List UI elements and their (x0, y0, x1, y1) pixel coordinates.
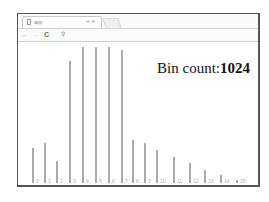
tab-strip: app + × (18, 14, 258, 29)
close-icon[interactable]: + × (86, 18, 95, 24)
histogram-bar (204, 170, 206, 183)
toolbar: ← → C ⚲ (18, 29, 258, 42)
bin-label: 2 (60, 178, 63, 184)
bin-label: 9 (148, 178, 151, 184)
bin-label: 12 (193, 178, 199, 184)
bin-label: 7 (125, 178, 128, 184)
bin-label: 10 (160, 178, 166, 184)
bin-label: 4 (86, 178, 89, 184)
bin-label: 0 (36, 178, 39, 184)
bin-label: 15 (240, 178, 246, 184)
bin-label: 5 (99, 178, 102, 184)
bin-label: 3 (73, 178, 76, 184)
address-bar[interactable]: ⚲ (59, 30, 254, 39)
histogram-bar (173, 157, 175, 183)
histogram-bar (56, 161, 58, 183)
histogram-bar (44, 143, 46, 183)
histogram-bar (156, 150, 158, 183)
new-tab-button[interactable] (102, 18, 122, 29)
bin-label: 1 (48, 178, 51, 184)
bin-label: 11 (177, 178, 182, 184)
page-content: Bin count:1024 0123456789101112131415 (18, 42, 258, 185)
histogram-bar (108, 47, 110, 183)
tab-app[interactable]: app + × (22, 16, 102, 28)
histogram-bar (82, 47, 84, 183)
bin-label: 6 (112, 178, 115, 184)
histogram-bar (69, 61, 71, 183)
histogram-bar (95, 47, 97, 183)
reload-icon[interactable]: C (44, 30, 49, 40)
bin-label: 8 (136, 178, 139, 184)
page-icon (27, 19, 31, 25)
bin-label: 13 (208, 178, 214, 184)
histogram-bar (121, 50, 123, 183)
browser-window: app + × ← → C ⚲ Bin count:1024 012345678… (17, 13, 260, 187)
histogram-bar (189, 163, 191, 183)
histogram-bar (220, 175, 222, 183)
histogram-bar (236, 180, 238, 183)
back-icon[interactable]: ← (21, 30, 28, 40)
search-icon: ⚲ (61, 30, 65, 37)
forward-icon[interactable]: → (32, 30, 39, 40)
bin-label: 14 (224, 178, 230, 184)
histogram-bar (144, 143, 146, 183)
histogram-bar (132, 140, 134, 183)
histogram-bar (32, 148, 34, 183)
tab-title: app (34, 19, 42, 25)
bin-count-display: Bin count:1024 (157, 60, 250, 77)
